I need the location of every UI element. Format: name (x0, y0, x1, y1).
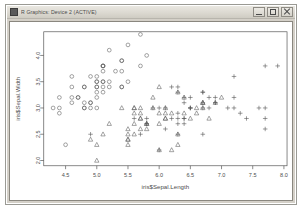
x-tick-label: 8.0 (280, 172, 288, 178)
series-virginica (88, 64, 280, 153)
y-axis-title: iris$Sepal.Width (14, 77, 21, 121)
data-point (138, 127, 142, 131)
data-point (95, 90, 99, 94)
r-graphics-icon (10, 8, 18, 16)
maximize-button[interactable] (267, 7, 279, 17)
window-titlebar[interactable]: R Graphics: Device 2 (ACTIVE) (7, 6, 295, 19)
plot-svg: 4.55.05.56.06.57.07.58.0 2.02.53.03.54.0… (10, 22, 292, 200)
data-point (126, 127, 130, 131)
x-axis-ticks: 4.55.05.56.06.57.07.58.0 (62, 166, 288, 178)
data-point (157, 121, 161, 125)
data-point (139, 64, 143, 68)
data-point (219, 95, 223, 99)
plot-frame (44, 32, 287, 166)
data-point (176, 85, 181, 89)
data-point (139, 33, 143, 37)
data-point (126, 132, 130, 136)
data-point (138, 116, 142, 120)
data-point (101, 64, 105, 68)
x-tick-label: 7.5 (249, 172, 257, 178)
y-tick-label: 4.0 (35, 52, 41, 60)
y-tick-label: 3.0 (35, 104, 41, 112)
data-point (263, 106, 268, 110)
data-point (88, 137, 92, 141)
close-button[interactable] (281, 7, 293, 17)
data-point (232, 95, 237, 99)
data-point (126, 137, 130, 141)
data-point (64, 143, 68, 147)
data-point (213, 95, 218, 99)
data-point (138, 116, 142, 120)
x-axis-title: iris$Sepal.Length (142, 183, 190, 190)
data-point (157, 106, 162, 110)
data-point (194, 111, 198, 115)
data-point (57, 96, 61, 100)
data-point (70, 96, 74, 100)
data-point (89, 101, 93, 105)
data-point (89, 106, 93, 110)
window-title: R Graphics: Device 2 (ACTIVE) (21, 9, 251, 15)
data-point (95, 96, 99, 100)
data-point (163, 116, 167, 120)
data-point (275, 64, 280, 68)
data-point (70, 75, 74, 79)
data-point (132, 116, 137, 120)
data-point (70, 101, 74, 105)
data-point (51, 106, 55, 110)
data-point (169, 85, 174, 89)
data-point (82, 101, 86, 105)
data-point (138, 106, 142, 110)
data-point (163, 127, 168, 131)
data-point (82, 85, 86, 89)
data-point (163, 116, 167, 120)
data-point (226, 106, 231, 110)
data-point (120, 69, 124, 73)
data-point (157, 85, 161, 89)
y-tick-label: 2.0 (35, 157, 41, 165)
data-point (176, 142, 180, 146)
data-point (263, 127, 268, 131)
data-point (188, 95, 193, 99)
data-point (188, 106, 193, 110)
data-point (188, 116, 192, 120)
data-point (232, 74, 237, 78)
data-point (176, 122, 181, 126)
data-point (201, 132, 206, 136)
minimize-button[interactable] (253, 7, 265, 17)
data-point (132, 132, 136, 136)
data-point (157, 111, 161, 115)
data-point (138, 132, 143, 136)
data-point (101, 80, 105, 84)
y-tick-label: 2.5 (35, 130, 41, 138)
data-point (169, 111, 173, 115)
data-point (114, 69, 118, 73)
data-point (232, 106, 237, 110)
data-point (126, 137, 130, 141)
data-points (51, 33, 280, 163)
scatter-plot: 4.55.05.56.06.57.07.58.0 2.02.53.03.54.0… (10, 22, 292, 200)
data-point (101, 85, 105, 89)
x-tick-label: 6.5 (186, 172, 194, 178)
data-point (176, 116, 181, 120)
series-versicolor (88, 85, 223, 163)
data-point (95, 75, 99, 79)
data-point (95, 158, 99, 162)
data-point (132, 121, 136, 125)
screen: R Graphics: Device 2 (ACTIVE) 4.55.05.56… (0, 0, 304, 213)
data-point (126, 142, 130, 146)
data-point (101, 132, 105, 136)
x-tick-label: 5.0 (93, 172, 101, 178)
data-point (182, 122, 187, 126)
data-point (95, 142, 99, 146)
data-point (169, 148, 173, 152)
data-point (144, 116, 149, 120)
data-point (95, 106, 99, 110)
data-point (126, 43, 130, 47)
data-point (126, 80, 130, 84)
data-point (182, 111, 186, 115)
data-point (57, 111, 61, 115)
data-point (89, 75, 93, 79)
data-point (238, 111, 243, 115)
data-point (163, 111, 167, 115)
data-point (107, 80, 111, 84)
